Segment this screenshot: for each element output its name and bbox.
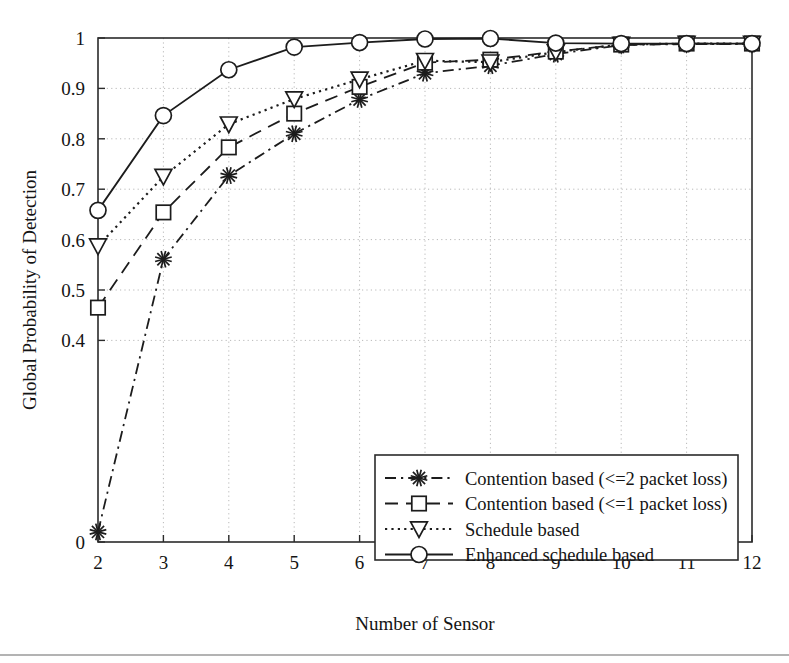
data-point-3-3 [286, 39, 302, 55]
data-point-3-6 [482, 31, 498, 47]
data-point-2-1 [155, 169, 172, 185]
y-tick-label: 0.8 [61, 129, 85, 150]
x-tick-label: 4 [224, 552, 234, 573]
data-point-3-9 [679, 36, 695, 52]
y-tick-label: 0.7 [61, 179, 85, 200]
legend: Contention based (<=2 packet loss)Conten… [375, 455, 738, 565]
y-tick-label: 0.4 [61, 330, 85, 351]
y-tick-label: 0 [76, 532, 86, 553]
y-tick-label: 0.6 [61, 230, 85, 251]
chart-svg: 23456789101112 00.40.50.60.70.80.91 Numb… [0, 0, 789, 663]
legend-marker-1 [412, 496, 426, 510]
data-point-1-1 [156, 205, 170, 219]
y-axis-title: Global Probability of Detection [19, 169, 40, 410]
data-point-1-2 [222, 140, 236, 154]
x-tick-label: 6 [355, 552, 365, 573]
x-tick-label: 12 [743, 552, 762, 573]
legend-label-0: Contention based (<=2 packet loss) [465, 469, 727, 490]
y-tick-label: 0.9 [61, 78, 85, 99]
legend-label-1: Contention based (<=1 packet loss) [465, 494, 727, 515]
y-tick-labels: 00.40.50.60.70.80.91 [61, 28, 85, 553]
x-tick-label: 5 [289, 552, 299, 573]
data-point-2-3 [286, 92, 303, 108]
data-point-3-4 [352, 35, 368, 51]
x-axis-title: Number of Sensor [355, 613, 495, 634]
data-point-1-0 [91, 300, 105, 314]
data-point-3-8 [613, 36, 629, 52]
y-tick-label: 0.5 [61, 280, 85, 301]
data-point-3-10 [744, 36, 760, 52]
legend-marker-3 [411, 547, 427, 563]
x-tick-label: 2 [93, 552, 103, 573]
data-point-3-2 [221, 62, 237, 78]
x-tick-label: 3 [159, 552, 169, 573]
data-point-3-0 [90, 202, 106, 218]
data-point-3-5 [417, 31, 433, 47]
data-point-3-7 [548, 35, 564, 51]
data-point-2-0 [90, 239, 107, 255]
y-tickmarks [98, 38, 105, 542]
legend-label-2: Schedule based [465, 520, 580, 540]
data-point-2-2 [220, 117, 237, 133]
legend-label-3: Enhanced schedule based [465, 545, 655, 565]
data-point-3-1 [155, 108, 171, 124]
y-tick-label: 1 [76, 28, 86, 49]
figure-container: 23456789101112 00.40.50.60.70.80.91 Numb… [0, 0, 789, 663]
